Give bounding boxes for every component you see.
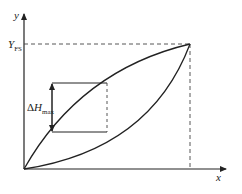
- max-hysteresis-label: ΔHmax: [27, 101, 55, 116]
- hysteresis-diagram: y x YFS ΔHmax: [0, 0, 242, 194]
- x-axis-label: x: [215, 171, 221, 183]
- lower-curve: [24, 44, 190, 169]
- upper-curve: [24, 44, 190, 169]
- y-axis-label: y: [13, 9, 19, 21]
- full-scale-label: YFS: [8, 38, 22, 53]
